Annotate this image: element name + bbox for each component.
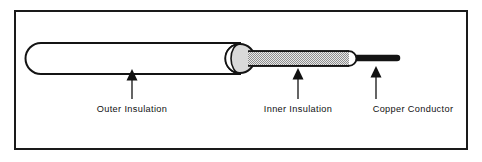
label-outer-insulation: Outer Insulation [97,104,167,114]
outer-insulation [26,43,241,74]
cable-diagram: Outer Insulation Inner Insulation Copper… [0,0,482,162]
label-copper-conductor: Copper Conductor [373,104,454,114]
outer-border [15,11,467,149]
label-inner-insulation: Inner Insulation [264,104,332,114]
inner-insulation-overlay [248,51,349,66]
diagram-canvas: Outer Insulation Inner Insulation Copper… [0,0,482,162]
